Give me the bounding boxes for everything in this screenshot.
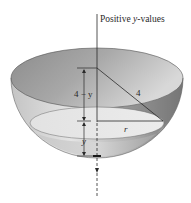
label-4-minus-y: 4 − y	[74, 90, 93, 99]
hemisphere-bowl-diagram	[0, 0, 191, 203]
label-hypotenuse: 4	[136, 89, 141, 98]
axis-label: Positive y-values	[100, 15, 165, 25]
bowl-bottom-marker	[93, 155, 101, 157]
axis-arrow-icon	[95, 168, 99, 173]
label-height: y	[82, 137, 86, 146]
label-radius: r	[124, 125, 128, 134]
